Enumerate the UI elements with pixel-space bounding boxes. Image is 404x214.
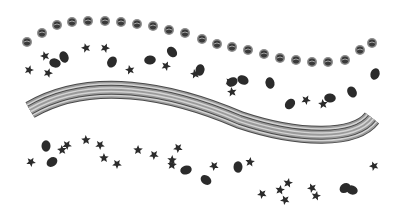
maple-leaf-icon	[40, 51, 49, 61]
round-leaf-icon	[225, 75, 239, 88]
maple-leaf-icon	[302, 96, 311, 105]
maple-leaf-icon	[25, 65, 34, 75]
maple-leaf-icon	[149, 151, 159, 160]
round-leaf-icon	[48, 57, 62, 69]
dot	[323, 57, 333, 67]
maple-leaf-icon	[133, 145, 143, 154]
dot	[291, 55, 301, 65]
maple-leaf-icon	[125, 65, 134, 75]
round-leaf-icon	[165, 45, 179, 60]
dot	[243, 45, 253, 55]
dot-arc	[22, 16, 377, 67]
maple-leaf-icon	[246, 157, 255, 166]
dot	[227, 42, 237, 52]
dot	[355, 45, 365, 55]
illustration-canvas	[0, 0, 404, 214]
maple-leaf-icon	[44, 68, 53, 78]
dot	[52, 20, 62, 30]
maple-leaf-icon	[307, 183, 316, 193]
round-leaf-icon	[179, 164, 193, 176]
round-leaf-icon	[369, 67, 382, 81]
maple-leaf-icon	[276, 185, 285, 194]
round-leaves	[42, 45, 382, 196]
round-leaf-icon	[42, 140, 51, 152]
maple-leaf-icon	[81, 135, 91, 144]
dot	[212, 39, 222, 49]
maple-leaf-icon	[162, 61, 171, 71]
maple-leaf-icon	[280, 196, 289, 205]
round-leaf-icon	[144, 55, 156, 65]
round-leaf-icon	[236, 73, 250, 86]
round-leaf-icon	[105, 55, 119, 70]
maple-leaf-icon	[101, 43, 110, 53]
round-leaf-icon	[233, 161, 242, 173]
maple-leaf-icon	[99, 153, 109, 162]
dot	[116, 17, 126, 27]
dot	[180, 28, 190, 38]
maple-leaf-icon	[95, 141, 105, 150]
decorative-illustration	[0, 0, 404, 214]
round-leaf-icon	[283, 97, 297, 112]
dot	[22, 37, 32, 47]
dot	[340, 55, 350, 65]
dot	[275, 53, 285, 63]
maple-leaf-icon	[81, 43, 90, 53]
maple-leaf-icon	[312, 191, 321, 201]
maple-leaf-icon	[284, 178, 293, 187]
round-leaf-icon	[265, 77, 276, 90]
maple-leaf-icon	[173, 144, 183, 153]
round-leaf-icon	[324, 93, 336, 103]
maple-leaf-icon	[167, 160, 177, 169]
dot	[148, 21, 158, 31]
dot	[164, 25, 174, 35]
dot	[132, 19, 142, 29]
maple-leaf-icon	[369, 161, 378, 171]
round-leaf-icon	[45, 155, 60, 169]
maple-leaf-icon	[26, 158, 36, 167]
dot	[259, 49, 269, 59]
striped-ribbon	[30, 90, 372, 135]
dot	[37, 28, 47, 38]
round-leaf-icon	[199, 173, 214, 187]
dot	[67, 17, 77, 27]
maple-leaf-icon	[257, 190, 266, 199]
maple-leaf-icon	[112, 160, 122, 169]
dot	[83, 16, 93, 26]
dot	[100, 16, 110, 26]
dot	[307, 57, 317, 67]
maple-leaf-icon	[209, 162, 219, 171]
dot	[197, 34, 207, 44]
maple-leaf-icon	[227, 87, 236, 96]
round-leaf-icon	[345, 85, 359, 100]
dot	[367, 38, 377, 48]
